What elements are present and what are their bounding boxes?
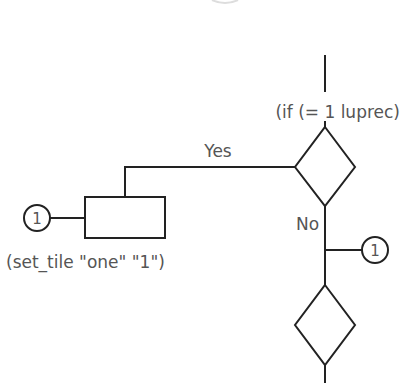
- connector-right-label: 1: [370, 242, 380, 260]
- decision-2-diamond[interactable]: [295, 285, 355, 365]
- flowchart-canvas: (if (= 1 luprec) Yes 1 (set_tile "one" "…: [0, 0, 407, 383]
- decision-1-label: (if (= 1 luprec): [275, 102, 400, 122]
- connector-left[interactable]: 1: [24, 205, 50, 231]
- yes-branch-line: [125, 167, 295, 197]
- connector-right[interactable]: 1: [362, 237, 388, 263]
- process-1-label: (set_tile "one" "1"): [6, 252, 165, 273]
- process-1-box[interactable]: [85, 197, 165, 238]
- decision-1-diamond[interactable]: [295, 127, 355, 206]
- cropped-fragment: [212, 0, 238, 3]
- connector-left-label: 1: [32, 210, 42, 228]
- no-label: No: [296, 214, 319, 234]
- yes-label: Yes: [203, 141, 232, 161]
